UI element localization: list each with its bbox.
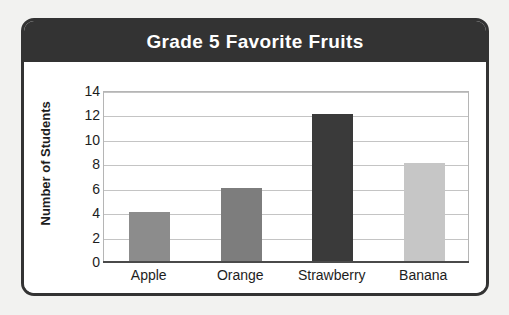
y-tick-label: 14 — [84, 83, 100, 99]
chart-page: Grade 5 Favorite Fruits Number of Studen… — [0, 0, 509, 315]
y-tick-label: 6 — [92, 181, 100, 197]
y-axis-title: Number of Students — [38, 106, 53, 226]
chart-title-bar: Grade 5 Favorite Fruits — [24, 21, 486, 62]
x-axis-line — [103, 261, 469, 263]
x-label-orange: Orange — [217, 267, 264, 283]
y-tick-label: 10 — [84, 132, 100, 148]
y-tick-label: 12 — [84, 107, 100, 123]
chart-body: Number of Students 02468101214 AppleOran… — [24, 62, 486, 293]
y-tick-label: 8 — [92, 156, 100, 172]
bar-strawberry — [312, 114, 353, 261]
y-tick-label: 0 — [92, 254, 100, 270]
bar-orange — [221, 188, 262, 261]
x-axis-category-labels: AppleOrangeStrawberryBanana — [103, 267, 469, 291]
plot-area — [103, 91, 469, 262]
bar-series — [104, 92, 468, 261]
x-label-strawberry: Strawberry — [298, 267, 366, 283]
chart-title: Grade 5 Favorite Fruits — [146, 31, 363, 53]
bar-apple — [129, 212, 170, 261]
y-tick-label: 4 — [92, 205, 100, 221]
x-label-apple: Apple — [131, 267, 167, 283]
y-tick-label: 2 — [92, 230, 100, 246]
x-label-banana: Banana — [399, 267, 447, 283]
chart-card: Grade 5 Favorite Fruits Number of Studen… — [21, 18, 489, 296]
y-axis-tick-labels: 02468101214 — [70, 91, 100, 262]
bar-banana — [404, 163, 445, 261]
